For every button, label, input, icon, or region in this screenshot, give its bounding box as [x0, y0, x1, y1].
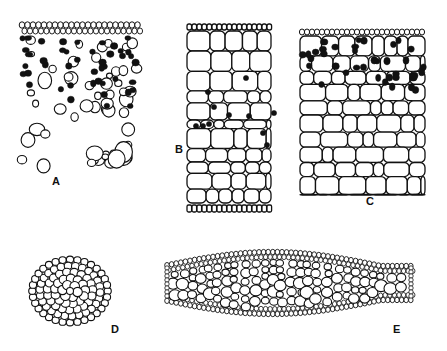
panel-e-drawing [165, 249, 415, 316]
panel-label-d: D [111, 323, 119, 335]
panel-label-e: E [393, 323, 400, 335]
panel-b-drawing [187, 24, 277, 212]
panel-a-drawing [17, 22, 142, 173]
panel-label-a: A [52, 175, 60, 187]
panel-label-b: B [175, 143, 183, 155]
tissue-illustration [0, 0, 447, 351]
panel-c-drawing [299, 29, 426, 195]
panel-d-drawing [29, 256, 112, 326]
panel-label-c: C [366, 195, 374, 207]
